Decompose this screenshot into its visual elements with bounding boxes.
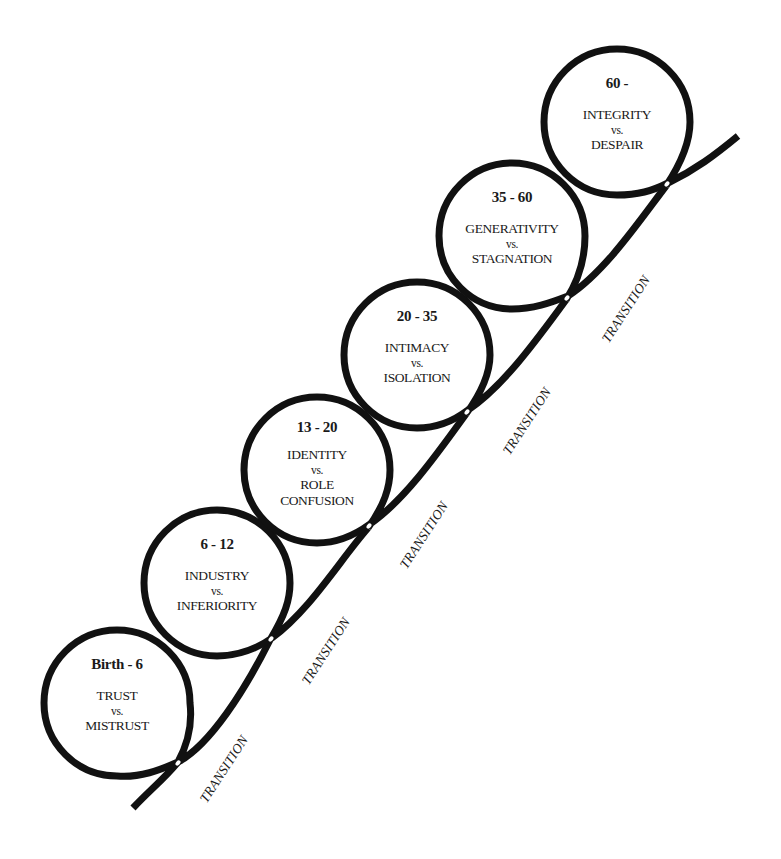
stage-vs: vs. xyxy=(44,704,190,718)
stage-negative: ROLE xyxy=(244,477,390,493)
stage-negative: DESPAIR xyxy=(544,137,690,153)
stage-negative: MISTRUST xyxy=(44,718,190,734)
stage-conflict: INDUSTRY vs. INFERIORITY xyxy=(144,568,290,614)
stage-vs: vs. xyxy=(439,237,585,251)
stage-positive: IDENTITY xyxy=(244,447,390,463)
stage-positive: INDUSTRY xyxy=(144,568,290,584)
stage-positive: TRUST xyxy=(44,688,190,704)
stage-35-60: 35 - 60 GENERATIVITY vs. STAGNATION xyxy=(439,163,585,309)
stage-vs: vs. xyxy=(544,123,690,137)
stage-positive: GENERATIVITY xyxy=(439,221,585,237)
stage-age: 60 - xyxy=(544,75,690,92)
stage-conflict: INTIMACY vs. ISOLATION xyxy=(344,340,490,386)
stage-birth-6: Birth - 6 TRUST vs. MISTRUST xyxy=(44,630,190,776)
stage-6-12: 6 - 12 INDUSTRY vs. INFERIORITY xyxy=(144,510,290,656)
stage-20-35: 20 - 35 INTIMACY vs. ISOLATION xyxy=(344,282,490,428)
stage-negative: CONFUSION xyxy=(244,493,390,509)
stage-vs: vs. xyxy=(344,356,490,370)
stage-vs: vs. xyxy=(144,584,290,598)
stage-age: 20 - 35 xyxy=(344,308,490,325)
stage-age: 6 - 12 xyxy=(144,536,290,553)
stage-vs: vs. xyxy=(244,463,390,477)
stage-negative: STAGNATION xyxy=(439,251,585,267)
stage-age: Birth - 6 xyxy=(44,656,190,673)
erikson-stages-diagram: Birth - 6 TRUST vs. MISTRUST 6 - 12 INDU… xyxy=(0,0,781,859)
stage-conflict: IDENTITY vs. ROLE CONFUSION xyxy=(244,447,390,509)
stage-negative: INFERIORITY xyxy=(144,598,290,614)
stage-13-20: 13 - 20 IDENTITY vs. ROLE CONFUSION xyxy=(244,397,390,543)
stage-conflict: TRUST vs. MISTRUST xyxy=(44,688,190,734)
stage-age: 13 - 20 xyxy=(244,419,390,436)
stage-positive: INTEGRITY xyxy=(544,107,690,123)
stage-conflict: INTEGRITY vs. DESPAIR xyxy=(544,107,690,153)
stage-age: 35 - 60 xyxy=(439,189,585,206)
stage-conflict: GENERATIVITY vs. STAGNATION xyxy=(439,221,585,267)
stage-60-plus: 60 - INTEGRITY vs. DESPAIR xyxy=(544,49,690,195)
stage-positive: INTIMACY xyxy=(344,340,490,356)
stage-negative: ISOLATION xyxy=(344,370,490,386)
